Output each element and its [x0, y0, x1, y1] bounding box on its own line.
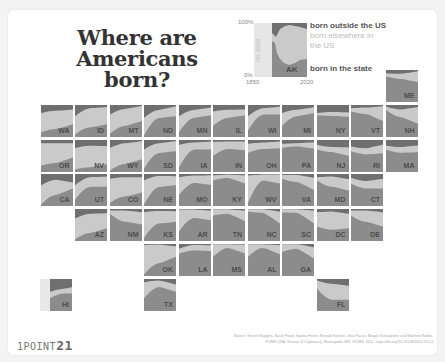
logo-prefix: 1POINT — [17, 341, 56, 352]
state-abbr: HI — [62, 301, 69, 309]
state-cell-vt: VT — [351, 105, 383, 137]
state-abbr: AZ — [95, 231, 104, 239]
state-cell-ia: IA — [179, 140, 211, 172]
state-cell-sc: SC — [282, 209, 314, 241]
state-cell-oh: OH — [248, 140, 280, 172]
state-cell-va: VA — [282, 174, 314, 206]
state-abbr: ID — [97, 127, 104, 135]
state-cell-ca: CA — [41, 174, 73, 206]
state-cell-wy: WY — [110, 140, 142, 172]
state-cell-md: MD — [317, 174, 349, 206]
state-cell-hi: HI — [50, 279, 72, 311]
state-cell-de: DE — [351, 209, 383, 241]
state-cell-or: OR — [41, 140, 73, 172]
state-cell-la: LA — [179, 244, 211, 276]
state-cell-il: IL — [213, 105, 245, 137]
source-citation: Source: Steven Ruggles, Sarah Flood, Sop… — [193, 333, 433, 345]
state-cell-ky: KY — [213, 174, 245, 206]
legend-no-data-label: no data — [254, 23, 272, 77]
state-abbr: WV — [265, 196, 276, 204]
state-cell-pa: PA — [282, 140, 314, 172]
state-abbr: LA — [198, 266, 207, 274]
legend-x-end: 2020 — [300, 79, 313, 85]
state-abbr: NM — [128, 231, 139, 239]
state-cell-az: AZ — [75, 209, 107, 241]
state-abbr: WY — [127, 162, 138, 170]
state-cell-wv: WV — [248, 174, 280, 206]
state-cell-me: ME — [386, 70, 418, 102]
state-cell-ks: KS — [144, 209, 176, 241]
state-cell-id: ID — [75, 105, 107, 137]
state-cell-ny: NY — [317, 105, 349, 137]
state-abbr: ME — [404, 92, 415, 100]
state-abbr: SC — [301, 231, 311, 239]
legend-state-label: AK — [286, 65, 298, 74]
page-title: Where are Americans born? — [42, 27, 232, 90]
state-abbr: FL — [337, 301, 346, 309]
state-abbr: OR — [59, 162, 70, 170]
state-cell-mn: MN — [179, 105, 211, 137]
state-abbr: NV — [94, 162, 104, 170]
state-abbr: NC — [266, 231, 276, 239]
state-abbr: MO — [196, 196, 207, 204]
state-abbr: MT — [128, 127, 138, 135]
state-cell-ms: MS — [213, 244, 245, 276]
state-cell-nj: NJ — [317, 140, 349, 172]
state-abbr: NY — [336, 127, 346, 135]
state-abbr: TN — [233, 231, 242, 239]
state-abbr: MA — [404, 162, 415, 170]
state-abbr: WI — [268, 127, 277, 135]
state-cell-ar: AR — [179, 209, 211, 241]
state-abbr: VT — [371, 127, 380, 135]
state-abbr: NH — [404, 127, 414, 135]
state-cell-ga: GA — [282, 244, 314, 276]
state-cell-fl: FL — [317, 279, 349, 311]
state-abbr: WA — [58, 127, 69, 135]
state-abbr: OK — [163, 266, 174, 274]
state-abbr: KS — [163, 231, 173, 239]
state-cell-nd: ND — [144, 105, 176, 137]
state-abbr: PA — [302, 162, 311, 170]
legend-in-state-label: born in the state — [310, 64, 372, 73]
state-abbr: DC — [335, 231, 345, 239]
state-abbr: UT — [95, 196, 104, 204]
state-cell-sd: SD — [144, 140, 176, 172]
state-cell-nv: NV — [75, 140, 107, 172]
state-cell-ut: UT — [75, 174, 107, 206]
state-cell-nh: NH — [386, 105, 418, 137]
brand-logo: 1POINT21 — [17, 338, 73, 353]
state-abbr: KY — [232, 196, 242, 204]
hawaii-no-data-band — [40, 279, 50, 311]
state-cell-mt: MT — [110, 105, 142, 137]
state-abbr: CT — [371, 196, 380, 204]
state-abbr: AL — [267, 266, 276, 274]
state-abbr: DE — [370, 231, 380, 239]
state-cell-wi: WI — [248, 105, 280, 137]
state-abbr: CA — [59, 196, 69, 204]
state-abbr: OH — [266, 162, 277, 170]
legend-y-top-tick: 100% — [238, 19, 253, 25]
state-abbr: ND — [163, 127, 173, 135]
state-abbr: RI — [373, 162, 380, 170]
state-abbr: TX — [164, 301, 173, 309]
state-cell-al: AL — [248, 244, 280, 276]
state-abbr: VA — [302, 196, 311, 204]
state-cell-mi: MI — [282, 105, 314, 137]
state-abbr: MD — [335, 196, 346, 204]
state-abbr: MS — [232, 266, 243, 274]
state-cell-ri: RI — [351, 140, 383, 172]
state-abbr: IN — [235, 162, 242, 170]
source-line-2: IPUMS USA: Version 11.0 [dataset]. Minne… — [193, 339, 433, 345]
state-cell-nm: NM — [110, 209, 142, 241]
state-abbr: IA — [201, 162, 208, 170]
state-abbr: GA — [301, 266, 312, 274]
state-abbr: NJ — [337, 162, 346, 170]
logo-suffix: 21 — [56, 338, 73, 353]
state-abbr: MN — [197, 127, 208, 135]
state-cell-ne: NE — [144, 174, 176, 206]
state-cell-tx: TX — [144, 279, 176, 311]
state-cell-ok: OK — [144, 244, 176, 276]
state-cell-ct: CT — [351, 174, 383, 206]
state-cell-dc: DC — [317, 209, 349, 241]
state-cell-nc: NC — [248, 209, 280, 241]
